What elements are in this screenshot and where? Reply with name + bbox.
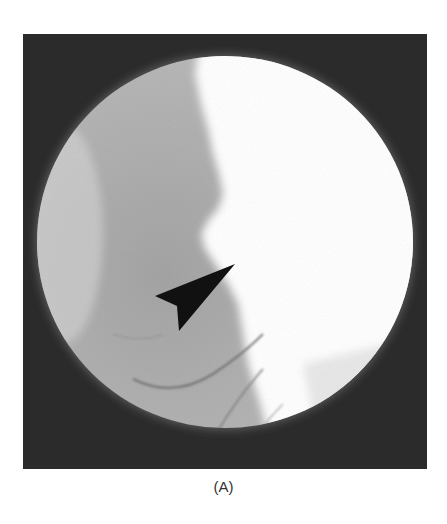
fluoroscopy-svg xyxy=(23,34,427,469)
panel-label: (A) xyxy=(0,478,447,495)
fluoroscopy-image xyxy=(23,34,427,469)
